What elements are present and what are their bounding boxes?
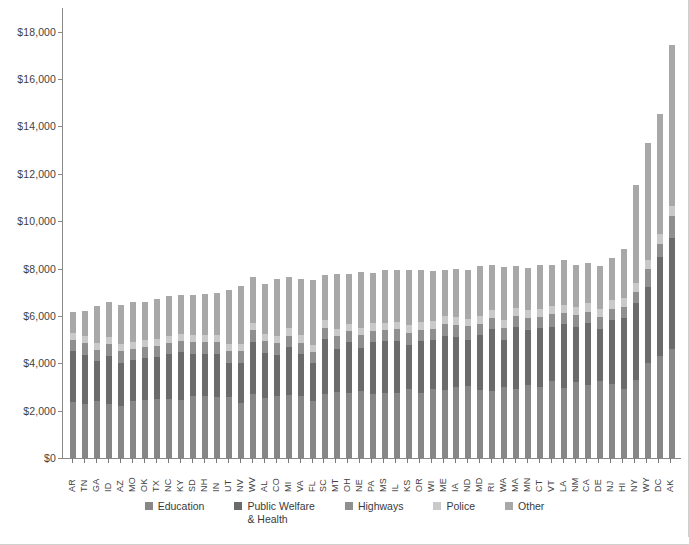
- legend-item[interactable]: Education: [145, 500, 205, 513]
- bar-column[interactable]: [415, 8, 427, 458]
- bar-column[interactable]: [522, 8, 534, 458]
- bar-column[interactable]: [223, 8, 235, 458]
- bar-column[interactable]: [451, 8, 463, 458]
- stacked-bar[interactable]: [585, 263, 591, 458]
- bar-column[interactable]: [498, 8, 510, 458]
- legend-item[interactable]: Highways: [345, 500, 404, 513]
- bar-column[interactable]: [558, 8, 570, 458]
- stacked-bar[interactable]: [274, 279, 280, 458]
- bar-column[interactable]: [247, 8, 259, 458]
- stacked-bar[interactable]: [645, 143, 651, 458]
- bar-column[interactable]: [546, 8, 558, 458]
- stacked-bar[interactable]: [250, 277, 256, 458]
- bar-column[interactable]: [618, 8, 630, 458]
- stacked-bar[interactable]: [238, 286, 244, 458]
- bar-column[interactable]: [462, 8, 474, 458]
- bar-column[interactable]: [570, 8, 582, 458]
- stacked-bar[interactable]: [501, 267, 507, 458]
- bar-column[interactable]: [427, 8, 439, 458]
- bar-column[interactable]: [534, 8, 546, 458]
- stacked-bar[interactable]: [465, 270, 471, 458]
- bar-column[interactable]: [115, 8, 127, 458]
- bar-column[interactable]: [307, 8, 319, 458]
- bar-column[interactable]: [67, 8, 79, 458]
- stacked-bar[interactable]: [573, 265, 579, 458]
- stacked-bar[interactable]: [382, 270, 388, 458]
- bar-column[interactable]: [127, 8, 139, 458]
- stacked-bar[interactable]: [621, 249, 627, 458]
- bar-column[interactable]: [319, 8, 331, 458]
- bar-column[interactable]: [474, 8, 486, 458]
- bar-column[interactable]: [642, 8, 654, 458]
- stacked-bar[interactable]: [525, 268, 531, 458]
- bar-column[interactable]: [103, 8, 115, 458]
- stacked-bar[interactable]: [298, 279, 304, 458]
- stacked-bar[interactable]: [657, 114, 663, 458]
- bar-column[interactable]: [259, 8, 271, 458]
- bar-column[interactable]: [630, 8, 642, 458]
- bar-column[interactable]: [163, 8, 175, 458]
- stacked-bar[interactable]: [310, 280, 316, 458]
- bar-column[interactable]: [439, 8, 451, 458]
- bar-column[interactable]: [151, 8, 163, 458]
- legend-item[interactable]: Police: [433, 500, 475, 513]
- stacked-bar[interactable]: [430, 271, 436, 458]
- bar-column[interactable]: [666, 8, 678, 458]
- stacked-bar[interactable]: [94, 306, 100, 458]
- bar-column[interactable]: [403, 8, 415, 458]
- stacked-bar[interactable]: [70, 312, 76, 458]
- stacked-bar[interactable]: [477, 266, 483, 458]
- bar-column[interactable]: [594, 8, 606, 458]
- bar-column[interactable]: [486, 8, 498, 458]
- bar-column[interactable]: [187, 8, 199, 458]
- stacked-bar[interactable]: [394, 270, 400, 458]
- stacked-bar[interactable]: [549, 265, 555, 458]
- stacked-bar[interactable]: [453, 269, 459, 458]
- bar-column[interactable]: [367, 8, 379, 458]
- stacked-bar[interactable]: [106, 302, 112, 458]
- stacked-bar[interactable]: [286, 277, 292, 458]
- stacked-bar[interactable]: [262, 284, 268, 458]
- bar-column[interactable]: [283, 8, 295, 458]
- stacked-bar[interactable]: [489, 265, 495, 458]
- stacked-bar[interactable]: [334, 274, 340, 458]
- stacked-bar[interactable]: [561, 260, 567, 458]
- bar-column[interactable]: [199, 8, 211, 458]
- stacked-bar[interactable]: [513, 266, 519, 458]
- stacked-bar[interactable]: [214, 293, 220, 458]
- bar-column[interactable]: [391, 8, 403, 458]
- stacked-bar[interactable]: [154, 299, 160, 458]
- stacked-bar[interactable]: [202, 294, 208, 458]
- bar-column[interactable]: [355, 8, 367, 458]
- legend-item[interactable]: Public Welfare & Health: [234, 500, 315, 526]
- bar-column[interactable]: [271, 8, 283, 458]
- stacked-bar[interactable]: [130, 302, 136, 458]
- stacked-bar[interactable]: [346, 274, 352, 458]
- bar-column[interactable]: [654, 8, 666, 458]
- stacked-bar[interactable]: [442, 270, 448, 458]
- bar-column[interactable]: [175, 8, 187, 458]
- stacked-bar[interactable]: [633, 185, 639, 458]
- stacked-bar[interactable]: [178, 295, 184, 458]
- stacked-bar[interactable]: [190, 295, 196, 458]
- stacked-bar[interactable]: [370, 273, 376, 458]
- stacked-bar[interactable]: [609, 258, 615, 458]
- stacked-bar[interactable]: [406, 270, 412, 458]
- bar-column[interactable]: [91, 8, 103, 458]
- stacked-bar[interactable]: [82, 311, 88, 458]
- stacked-bar[interactable]: [142, 302, 148, 459]
- bar-column[interactable]: [79, 8, 91, 458]
- stacked-bar[interactable]: [166, 296, 172, 458]
- bar-column[interactable]: [139, 8, 151, 458]
- bar-column[interactable]: [379, 8, 391, 458]
- stacked-bar[interactable]: [597, 266, 603, 458]
- bar-column[interactable]: [606, 8, 618, 458]
- stacked-bar[interactable]: [226, 290, 232, 458]
- stacked-bar[interactable]: [418, 270, 424, 458]
- legend-item[interactable]: Other: [505, 500, 544, 513]
- stacked-bar[interactable]: [537, 265, 543, 458]
- stacked-bar[interactable]: [669, 45, 675, 459]
- stacked-bar[interactable]: [358, 272, 364, 458]
- stacked-bar[interactable]: [118, 305, 124, 458]
- bar-column[interactable]: [235, 8, 247, 458]
